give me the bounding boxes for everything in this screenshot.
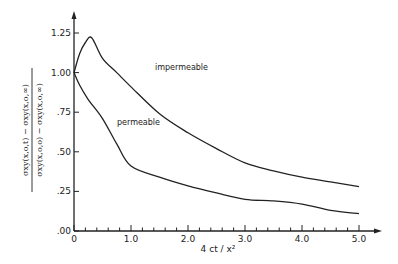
x-axis-arrow-icon <box>374 229 382 234</box>
x-tick-label: 1.0 <box>124 234 139 244</box>
x-tick-label: 5.0 <box>352 234 367 244</box>
y-tick-label: .75 <box>57 107 71 117</box>
x-tick-label: 4.0 <box>295 234 310 244</box>
impermeable-curve <box>74 37 359 187</box>
y-axis-arrow-icon <box>72 11 77 19</box>
x-tick-label: 3.0 <box>238 234 253 244</box>
chart: .00.25.50.751.001.25 01.02.03.04.05.0 im… <box>0 0 398 264</box>
permeable-label: permeable <box>117 118 160 127</box>
y-axis-label-numerator: σxy(x,o,t) − σxy(x,o,∞) <box>21 84 30 176</box>
y-axis-label: σxy(x,o,t) − σxy(x,o,∞) σxy(x,o,o) − σxy… <box>21 68 44 192</box>
y-tick-label: 1.00 <box>51 68 71 78</box>
x-tick-label: 0 <box>71 234 77 244</box>
y-tick-label: .50 <box>57 147 72 157</box>
y-axis <box>72 11 77 231</box>
y-tick-label: 1.25 <box>51 28 71 38</box>
x-ticks: 01.02.03.04.05.0 <box>71 225 366 244</box>
permeable-curve <box>74 73 359 214</box>
y-tick-label: .25 <box>57 186 71 196</box>
y-tick-label: .00 <box>57 226 72 236</box>
impermeable-label: impermeable <box>155 63 208 72</box>
y-axis-label-denominator: σxy(x,o,o) − σxy(x,o,∞) <box>35 83 44 177</box>
x-axis-label: 4 ct / x² <box>201 244 236 254</box>
x-tick-label: 2.0 <box>181 234 196 244</box>
y-ticks: .00.25.50.751.001.25 <box>51 28 79 236</box>
